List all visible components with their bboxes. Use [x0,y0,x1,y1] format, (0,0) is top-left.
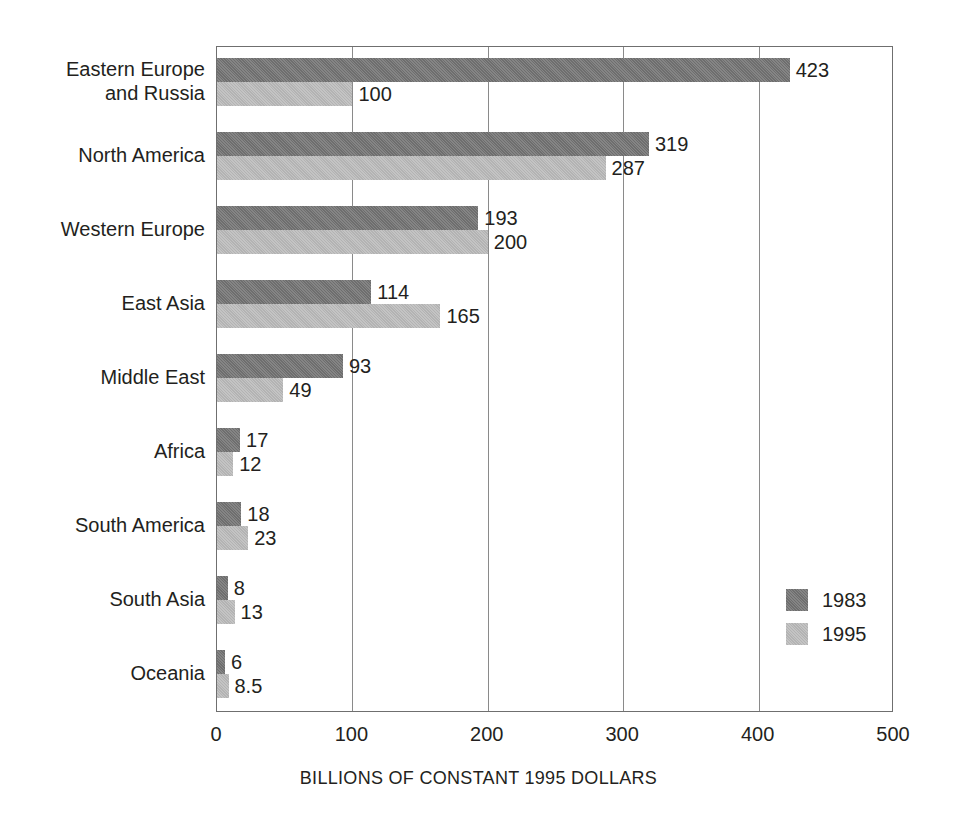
legend-swatch-1995-icon [786,623,808,645]
bar-value-1995-6: 12 [233,452,261,476]
bar-value-1983-3: 193 [478,206,517,230]
category-label-6: Africa [5,439,205,463]
x-tick-400: 400 [741,722,774,746]
bar-value-1983-9: 6 [225,650,242,674]
bar-value-1983-5: 93 [343,354,371,378]
category-label-7: South America [5,513,205,537]
category-label-5: Middle East [5,365,205,389]
category-label-9: Oceania [5,661,205,685]
bar-value-1983-2: 319 [649,132,688,156]
bar-1995-4[interactable] [217,304,440,328]
bar-value-1983-6: 17 [240,428,268,452]
bar-1995-1[interactable] [217,82,352,106]
bar-value-1995-8: 13 [235,600,263,624]
bar-1983-2[interactable] [217,132,649,156]
bar-1983-4[interactable] [217,280,371,304]
legend-item-1995[interactable]: 1995 [786,617,867,651]
category-axis-labels: Eastern Europe and RussiaNorth AmericaWe… [0,0,205,817]
bar-1995-7[interactable] [217,526,248,550]
legend: 1983 1995 [786,583,867,651]
bar-value-1995-4: 165 [440,304,479,328]
bar-value-1995-5: 49 [283,378,311,402]
legend-label-1995: 1995 [822,623,867,645]
bar-value-1995-7: 23 [248,526,276,550]
bar-value-1983-1: 423 [790,58,829,82]
bar-1983-8[interactable] [217,576,228,600]
bar-1983-5[interactable] [217,354,343,378]
bar-value-1995-1: 100 [352,82,391,106]
bar-1995-8[interactable] [217,600,235,624]
bar-1995-9[interactable] [217,674,229,698]
bar-1995-3[interactable] [217,230,488,254]
x-tick-300: 300 [606,722,639,746]
x-tick-200: 200 [470,722,503,746]
bar-1983-1[interactable] [217,58,790,82]
bar-1995-5[interactable] [217,378,283,402]
gridline-400 [759,47,760,711]
category-label-4: East Asia [5,291,205,315]
bar-1983-9[interactable] [217,650,225,674]
legend-item-1983[interactable]: 1983 [786,583,867,617]
category-label-3: Western Europe [5,217,205,241]
bar-chart: Eastern Europe and RussiaNorth AmericaWe… [0,0,957,817]
bar-value-1983-8: 8 [228,576,245,600]
legend-swatch-1983-icon [786,589,808,611]
bar-value-1983-7: 18 [241,502,269,526]
category-label-2: North America [5,143,205,167]
x-axis-title: BILLIONS OF CONSTANT 1995 DOLLARS [0,768,957,789]
bar-1995-6[interactable] [217,452,233,476]
bar-1995-2[interactable] [217,156,606,180]
bar-1983-7[interactable] [217,502,241,526]
x-tick-100: 100 [335,722,368,746]
bar-value-1995-3: 200 [488,230,527,254]
legend-label-1983: 1983 [822,589,867,611]
bar-value-1995-2: 287 [606,156,645,180]
x-tick-500: 500 [876,722,909,746]
bar-1983-3[interactable] [217,206,478,230]
x-tick-0: 0 [210,722,221,746]
category-label-1: Eastern Europe and Russia [5,57,205,105]
bar-1983-6[interactable] [217,428,240,452]
category-label-8: South Asia [5,587,205,611]
bar-value-1995-9: 8.5 [229,674,263,698]
bar-value-1983-4: 114 [371,280,409,304]
